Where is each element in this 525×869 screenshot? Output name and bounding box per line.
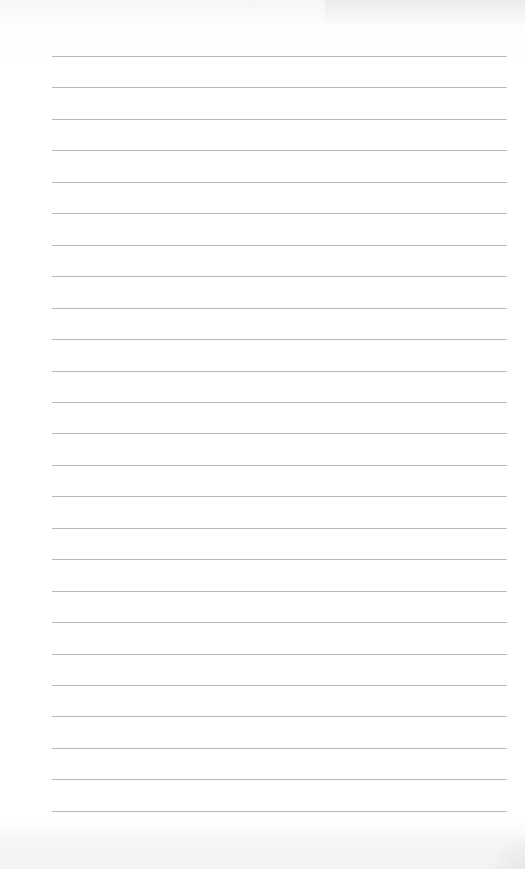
ruled-line <box>52 528 507 529</box>
ruled-line <box>52 622 507 623</box>
ruled-line <box>52 433 507 434</box>
ruled-line <box>52 591 507 592</box>
page-curl-shadow <box>495 829 525 869</box>
ruled-line <box>52 87 507 88</box>
ruled-line <box>52 182 507 183</box>
ruled-line <box>52 685 507 686</box>
ruled-line <box>52 276 507 277</box>
ruled-line <box>52 371 507 372</box>
ruled-line <box>52 654 507 655</box>
ruled-line <box>52 779 507 780</box>
ruled-line <box>52 245 507 246</box>
ruled-line <box>52 150 507 151</box>
ruled-line <box>52 213 507 214</box>
ruled-line <box>52 308 507 309</box>
ruled-line <box>52 56 507 57</box>
ruled-line <box>52 119 507 120</box>
ruled-line <box>52 339 507 340</box>
ruled-line <box>52 748 507 749</box>
ruled-line <box>52 716 507 717</box>
ruled-line <box>52 465 507 466</box>
ruled-line <box>52 559 507 560</box>
ruled-line <box>52 811 507 812</box>
ruled-line <box>52 496 507 497</box>
top-edge-shadow <box>325 0 525 25</box>
ruled-line <box>52 402 507 403</box>
lined-paper-page <box>0 0 525 869</box>
